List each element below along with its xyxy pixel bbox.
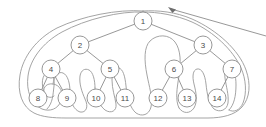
node-label-8: 8 — [36, 94, 41, 103]
node-label-1: 1 — [141, 17, 146, 26]
direction-arrow — [168, 7, 266, 36]
node-label-6: 6 — [172, 65, 177, 74]
tree-node-4[interactable]: 4 — [42, 60, 60, 78]
edge-1-3 — [143, 21, 203, 45]
node-label-4: 4 — [49, 65, 54, 74]
node-label-11: 11 — [121, 94, 130, 103]
tree-node-3[interactable]: 3 — [194, 36, 212, 54]
tree-node-14[interactable]: 14 — [208, 89, 226, 107]
node-label-13: 13 — [183, 94, 192, 103]
tree-diagram-svg: 1 2 3 4 5 6 7 — [0, 0, 266, 127]
arrow-line — [171, 9, 266, 36]
node-label-9: 9 — [65, 94, 70, 103]
edge-1-2 — [80, 21, 143, 45]
contour-lobe-9 — [53, 69, 95, 112]
tree-node-1[interactable]: 1 — [134, 12, 152, 30]
tree-node-2[interactable]: 2 — [71, 36, 89, 54]
node-label-14: 14 — [213, 94, 222, 103]
tree-node-5[interactable]: 5 — [101, 60, 119, 78]
tree-node-6[interactable]: 6 — [165, 60, 183, 78]
tree-node-10[interactable]: 10 — [87, 89, 105, 107]
node-label-2: 2 — [78, 41, 83, 50]
tree-contour-figure: 1 2 3 4 5 6 7 — [0, 0, 266, 127]
node-label-3: 3 — [201, 41, 206, 50]
node-label-7: 7 — [230, 65, 235, 74]
tree-node-7[interactable]: 7 — [223, 60, 241, 78]
node-label-5: 5 — [108, 65, 113, 74]
node-label-10: 10 — [92, 94, 101, 103]
tree-edges — [38, 21, 232, 98]
tree-node-12[interactable]: 12 — [149, 89, 167, 107]
tree-node-13[interactable]: 13 — [178, 89, 196, 107]
tree-node-8[interactable]: 8 — [29, 89, 47, 107]
tree-node-11[interactable]: 11 — [116, 89, 134, 107]
node-label-12: 12 — [154, 94, 163, 103]
tree-node-9[interactable]: 9 — [58, 89, 76, 107]
